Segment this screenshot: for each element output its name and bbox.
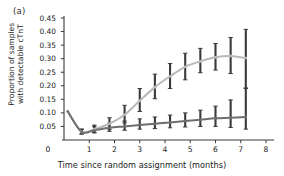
data-point	[138, 124, 141, 127]
datapoint-layer	[66, 55, 247, 134]
data-point	[214, 56, 217, 59]
data-point	[123, 113, 126, 116]
data-point	[244, 116, 247, 119]
data-point	[93, 129, 96, 132]
data-point	[244, 57, 247, 60]
data-point	[154, 86, 157, 89]
data-point	[154, 122, 157, 125]
data-point	[214, 117, 217, 120]
data-point	[108, 122, 111, 125]
data-point	[229, 116, 232, 119]
data-point	[169, 121, 172, 124]
series-layer	[68, 56, 246, 133]
data-point	[229, 55, 232, 58]
errorbar	[244, 88, 248, 129]
chart-canvas	[0, 0, 284, 176]
data-point	[80, 131, 83, 134]
data-point	[184, 120, 187, 123]
data-point	[66, 110, 69, 113]
data-point	[199, 60, 202, 63]
data-point	[123, 125, 126, 128]
data-point	[108, 126, 111, 129]
figure-panel: (a) Proportion of samples with detectabl…	[0, 0, 284, 176]
data-point	[169, 75, 172, 78]
data-point	[138, 99, 141, 102]
series-line-upper-curve	[68, 56, 246, 133]
errorbar	[213, 106, 217, 126]
data-point	[184, 65, 187, 68]
errorbar	[198, 110, 202, 126]
data-point	[199, 118, 202, 121]
errorbar	[228, 100, 232, 128]
